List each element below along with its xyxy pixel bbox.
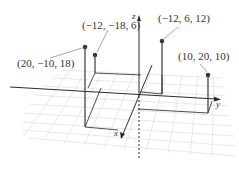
- y-axis: [10, 87, 216, 99]
- x-axis: [123, 65, 152, 134]
- y-axis-label: y: [216, 100, 220, 109]
- point-20-neg10-18: [83, 45, 88, 127]
- x-axis-arrow: [120, 132, 125, 139]
- coordinate-diagram: (20, −10, 18) (−12, −18, 6) (−12, 6, 12)…: [0, 0, 239, 171]
- point-label-20-neg10-18: (20, −10, 18): [17, 58, 75, 69]
- point-label-10-20-10: (10, 20, 10): [178, 51, 229, 62]
- point-label-neg12-6-12: (−12, 6, 12): [158, 13, 210, 24]
- x-axis-label: x: [114, 129, 118, 138]
- point-neg12-neg18-6: [93, 53, 98, 73]
- point-neg12-6-12: [160, 39, 165, 94]
- z-axis-label: z: [132, 12, 136, 21]
- point-label-neg12-neg18-6: (−12, −18, 6): [82, 20, 140, 31]
- xy-grid: [22, 70, 236, 157]
